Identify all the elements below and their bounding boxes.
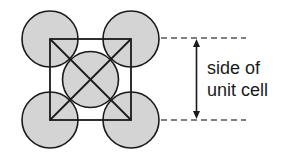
arrow-head-down-icon — [193, 111, 200, 119]
label-line-1: side of — [207, 58, 261, 78]
label-line-2: unit cell — [207, 80, 268, 100]
arrow-head-up-icon — [193, 39, 200, 47]
dimension-arrow — [193, 39, 200, 119]
dimension-lines — [161, 38, 246, 120]
unit-cell-diagram: side of unit cell — [0, 0, 287, 154]
